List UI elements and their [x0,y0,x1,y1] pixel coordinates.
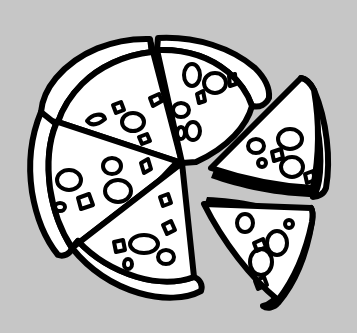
illustration-canvas: Line drawing of a pizza cut into slices,… [0,0,357,333]
pizza-illustration: Line drawing of a pizza cut into slices,… [0,0,357,333]
